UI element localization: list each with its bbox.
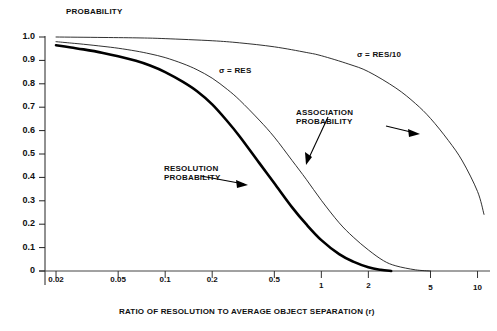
arrowhead-resolution-probability <box>236 180 248 188</box>
x-tick-label-6: 2 <box>353 281 383 290</box>
y-tick-label-3: 0.3 <box>9 195 35 205</box>
chart-figure: PROBABILITY RATIO OF RESOLUTION TO AVERA… <box>0 0 497 331</box>
arrowhead-association-to-sigma-res-over-10 <box>408 129 420 137</box>
y-tick-label-1: 0.1 <box>9 242 35 252</box>
y-tick-label-6: 0.6 <box>9 125 35 135</box>
curve-2 <box>56 37 484 214</box>
y-tick-label-5: 0.5 <box>9 148 35 158</box>
arrow-association-to-sigma-res <box>308 117 328 160</box>
x-tick-label-2: 0.1 <box>150 275 180 284</box>
y-tick-label-2: 0.2 <box>9 218 35 228</box>
y-tick-label-9: 0.9 <box>9 54 35 64</box>
y-tick-label-7: 0.7 <box>9 101 35 111</box>
x-tick-label-0: 0.02 <box>41 275 71 284</box>
curve-0 <box>56 45 391 271</box>
y-tick-label-4: 0.4 <box>9 171 35 181</box>
axes <box>39 36 490 285</box>
x-tick-label-1: 0.05 <box>103 275 133 284</box>
x-tick-label-8: 10 <box>463 283 493 292</box>
y-tick-label-0: 0 <box>9 265 35 275</box>
x-tick-label-4: 0.5 <box>259 275 289 284</box>
x-tick-label-5: 1 <box>306 281 336 290</box>
x-tick-label-3: 0.2 <box>197 275 227 284</box>
curve-1 <box>56 42 430 271</box>
x-tick-label-7: 5 <box>416 283 446 292</box>
data-curves <box>56 37 484 271</box>
y-tick-label-8: 0.8 <box>9 78 35 88</box>
y-tick-label-10: 1.0 <box>9 31 35 41</box>
plot-area <box>0 0 497 331</box>
